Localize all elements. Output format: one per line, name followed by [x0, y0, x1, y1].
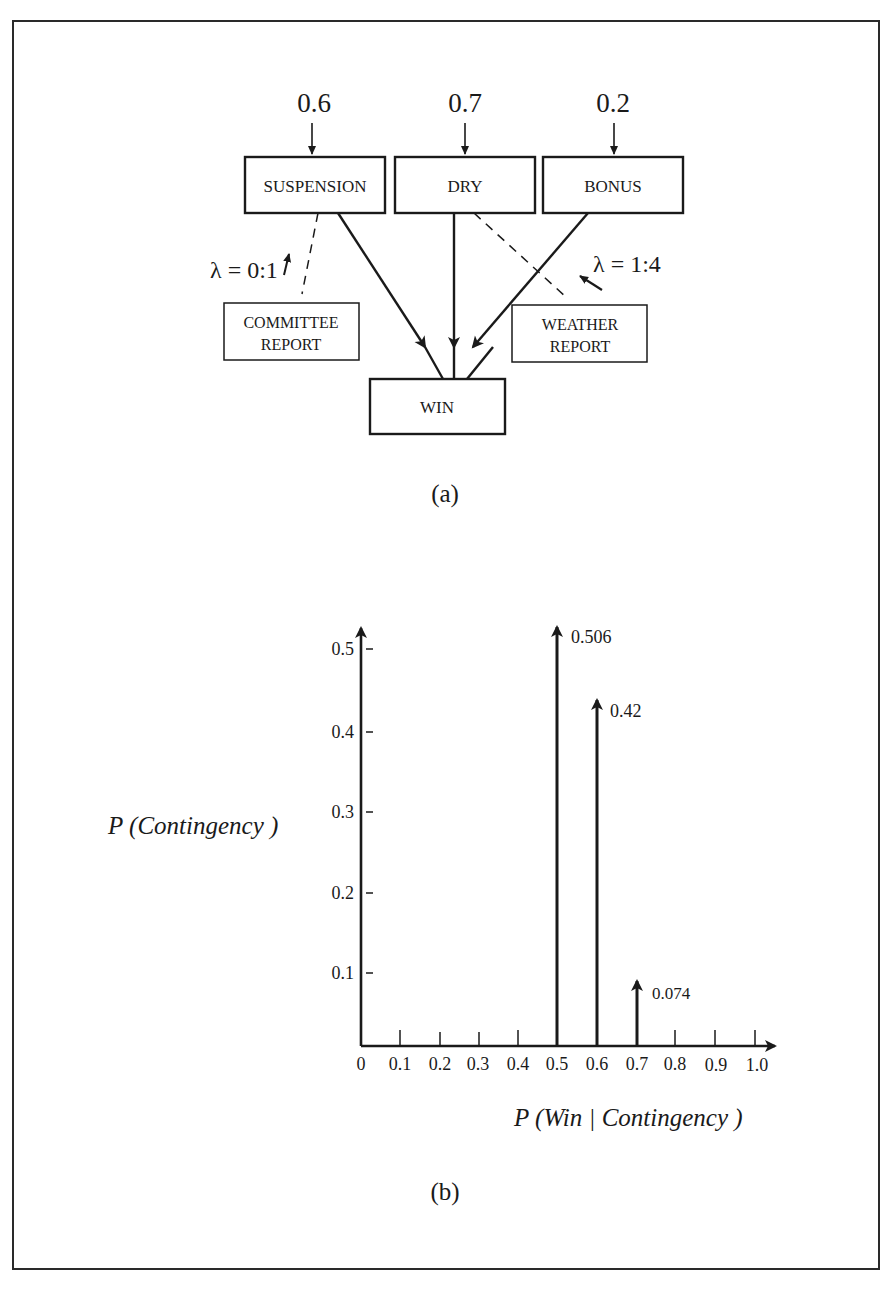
lambda-weather: λ = 1:4 [593, 251, 661, 277]
prior-bonus: 0.2 [596, 88, 630, 118]
spike-label-0.506: 0.506 [571, 627, 612, 647]
y-ticks: 0.1 0.2 0.3 0.4 0.5 [332, 639, 374, 983]
node-suspension: SUSPENSION [245, 157, 385, 213]
figure-canvas: 0.6 0.7 0.2 SUSPENSION DRY BONUS λ [0, 0, 894, 1290]
svg-text:0.1: 0.1 [332, 963, 355, 983]
svg-text:0.7: 0.7 [626, 1054, 649, 1074]
node-suspension-label: SUSPENSION [264, 177, 367, 196]
node-win: WIN [370, 379, 505, 434]
spike-label-0.074: 0.074 [652, 984, 691, 1003]
svg-text:0.5: 0.5 [546, 1054, 569, 1074]
node-bonus-label: BONUS [584, 177, 642, 196]
prior-suspension: 0.6 [297, 88, 331, 118]
x-tick-labels: 0 0.1 0.2 0.3 0.4 0.5 0.6 0.7 0.8 0.9 1.… [357, 1054, 769, 1075]
node-dry-label: DRY [448, 177, 483, 196]
svg-text:WEATHER: WEATHER [542, 316, 619, 333]
x-axis-label: P (Win | Contingency ) [513, 1104, 743, 1132]
svg-text:0.6: 0.6 [586, 1054, 609, 1074]
node-weather-report: WEATHER REPORT [512, 305, 647, 362]
svg-text:0.2: 0.2 [332, 883, 355, 903]
svg-text:0: 0 [357, 1054, 366, 1074]
y-axis-label: P (Contingency ) [107, 812, 278, 840]
svg-text:0.8: 0.8 [664, 1054, 687, 1074]
dashed-link-committee [302, 213, 318, 294]
spike-label-0.42: 0.42 [610, 701, 642, 721]
svg-text:0.4: 0.4 [507, 1054, 530, 1074]
svg-text:0.1: 0.1 [389, 1054, 412, 1074]
svg-text:1.0: 1.0 [746, 1055, 769, 1075]
lambda-committee-arrow-icon [284, 254, 289, 275]
svg-text:0.2: 0.2 [429, 1054, 452, 1074]
prior-dry: 0.7 [448, 88, 482, 118]
svg-text:0.5: 0.5 [332, 639, 355, 659]
svg-text:COMMITTEE: COMMITTEE [243, 314, 338, 331]
svg-text:REPORT: REPORT [550, 338, 611, 355]
svg-text:REPORT: REPORT [261, 336, 322, 353]
svg-text:0.3: 0.3 [332, 802, 355, 822]
caption-a: (a) [431, 480, 459, 508]
x-ticks [400, 1030, 755, 1046]
svg-text:0.9: 0.9 [705, 1055, 728, 1075]
svg-text:0.3: 0.3 [467, 1054, 490, 1074]
node-win-label: WIN [420, 398, 454, 417]
lambda-weather-arrow-icon [580, 276, 602, 290]
node-dry: DRY [395, 157, 535, 213]
chart-b: 0.1 0.2 0.3 0.4 0.5 0 0.1 0.2 0.3 0.4 0.… [107, 627, 775, 1206]
diagram-a: 0.6 0.7 0.2 SUSPENSION DRY BONUS λ [210, 88, 683, 508]
node-bonus: BONUS [543, 157, 683, 213]
caption-b: (b) [430, 1178, 459, 1206]
lambda-committee: λ = 0:1 [210, 257, 278, 283]
svg-text:0.4: 0.4 [332, 722, 355, 742]
node-committee-report: COMMITTEE REPORT [224, 303, 359, 360]
